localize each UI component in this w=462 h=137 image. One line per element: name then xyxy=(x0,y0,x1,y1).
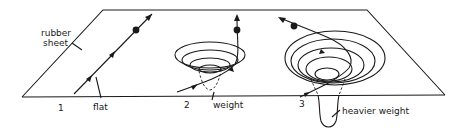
arrow-head-icon xyxy=(234,14,240,21)
weight-dent xyxy=(199,71,221,90)
arrow-head-icon xyxy=(304,92,310,97)
heavier-weight-dent xyxy=(318,95,339,127)
rubber-sheet-outline xyxy=(22,10,445,97)
arrow-head-icon xyxy=(278,17,286,23)
arrow-head-icon xyxy=(319,49,325,54)
ball-icon xyxy=(291,23,298,30)
rubber-sheet-label-line2: sheet xyxy=(43,38,68,48)
panel-3-heavier-weight: 3 heavier weight xyxy=(278,17,409,127)
arrow-head-icon xyxy=(191,84,198,90)
ball-icon xyxy=(234,27,241,34)
panel-2-number: 2 xyxy=(184,100,190,110)
rubber-sheet-label-line1: rubber xyxy=(41,28,71,38)
panel-2-caption: weight xyxy=(213,100,244,110)
ball-icon xyxy=(133,27,140,34)
rubber-sheet-diagram: rubber sheet 1 flat 2 weight xyxy=(0,0,462,137)
panel-1-number: 1 xyxy=(58,103,64,113)
panel-3-caption: heavier weight xyxy=(342,106,409,116)
panel-1-flat: 1 flat xyxy=(58,14,152,113)
panel-3-number: 3 xyxy=(299,99,305,109)
panel-1-caption: flat xyxy=(93,102,108,112)
